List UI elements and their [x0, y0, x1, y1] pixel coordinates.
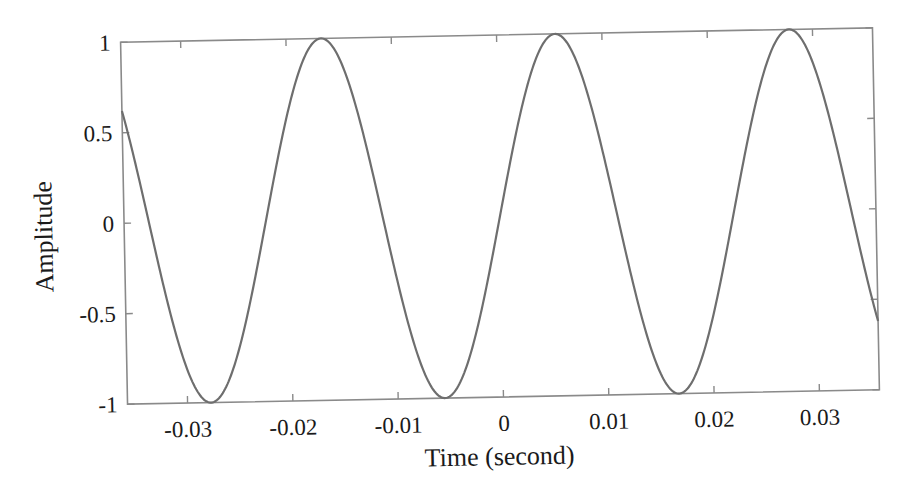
plot-group: -0.03-0.02-0.0100.010.020.03 -1-0.500.51…: [25, 16, 880, 480]
y-tick-label: 1: [99, 30, 111, 55]
y-tick-label: -0.5: [79, 302, 116, 328]
y-tick-label: 0.5: [83, 121, 112, 147]
x-tick-label: 0.03: [800, 405, 841, 431]
y-axis-label: Amplitude: [28, 181, 59, 293]
line-chart: -0.03-0.02-0.0100.010.020.03 -1-0.500.51…: [0, 0, 903, 496]
x-tick-label: 0: [498, 411, 510, 436]
figure: -0.03-0.02-0.0100.010.020.03 -1-0.500.51…: [0, 0, 903, 496]
x-axis-label: Time (second): [424, 441, 575, 473]
y-tick-label: -1: [98, 392, 118, 417]
y-axis-ticks: -1-0.500.51: [74, 16, 880, 418]
x-tick-label: -0.03: [164, 417, 212, 443]
x-tick-label: 0.01: [589, 409, 630, 435]
sine-wave-line: [121, 28, 880, 404]
x-tick-label: -0.01: [374, 413, 422, 439]
x-tick-label: -0.02: [269, 415, 317, 441]
y-tick-label: 0: [102, 211, 114, 236]
x-tick-label: 0.02: [694, 407, 735, 433]
x-axis-ticks: -0.03-0.02-0.0100.010.020.03: [157, 29, 841, 443]
